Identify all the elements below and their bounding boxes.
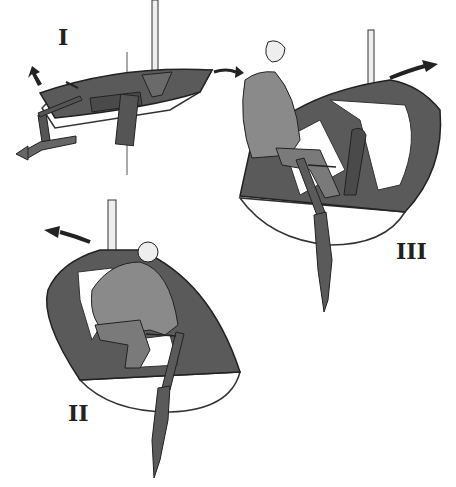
- panel-iii-boat: [240, 30, 441, 312]
- panel-ii-boat: [44, 200, 240, 478]
- panel-label-iii: III: [396, 240, 427, 262]
- panel-i-boat: [16, 0, 244, 175]
- illustration: I III II: [0, 0, 456, 487]
- panel-label-i: I: [58, 26, 68, 48]
- panel-label-ii: II: [68, 402, 89, 424]
